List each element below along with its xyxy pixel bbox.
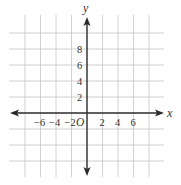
y-tick-labels: 2 4 6 8 xyxy=(77,44,83,103)
coordinate-plane: x y O −6 −4 −2 2 4 6 2 4 6 8 xyxy=(0,0,181,185)
origin-label: O xyxy=(76,116,85,128)
y-tick-label: 8 xyxy=(77,44,82,55)
x-tick-label: 6 xyxy=(131,117,136,128)
y-tick-label: 2 xyxy=(77,92,82,103)
x-tick-labels: −6 −4 −2 2 4 6 xyxy=(34,117,136,128)
x-tick-label: −2 xyxy=(65,117,76,128)
x-tick-label: −6 xyxy=(34,117,45,128)
x-tick-label: −4 xyxy=(49,117,61,128)
x-tick-label: 4 xyxy=(115,117,121,128)
x-tick-label: 2 xyxy=(100,117,105,128)
y-axis-label: y xyxy=(82,1,89,15)
x-axis-label: x xyxy=(166,106,173,120)
y-tick-label: 6 xyxy=(77,60,82,71)
y-tick-label: 4 xyxy=(77,76,83,87)
